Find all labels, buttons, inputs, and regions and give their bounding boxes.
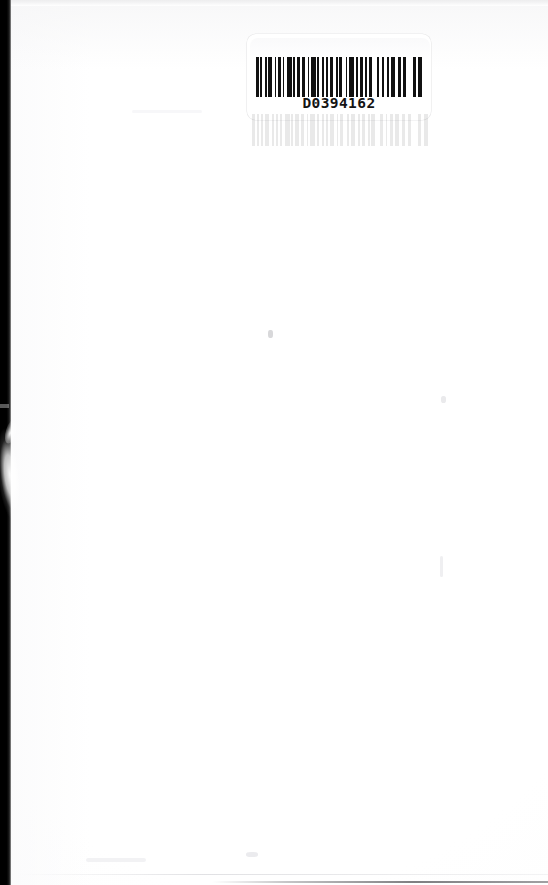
barcode-bar xyxy=(424,114,428,146)
barcode-number-text: D0394162 xyxy=(247,96,431,111)
barcode-showthrough xyxy=(252,114,428,146)
page-speck xyxy=(268,330,273,338)
scanned-page: D0394162 xyxy=(0,0,548,885)
barcode-space xyxy=(411,114,419,146)
barcode-bars xyxy=(256,57,422,97)
scanner-bottom-faint-line xyxy=(20,874,548,875)
page-speck xyxy=(86,858,146,862)
barcode-bar xyxy=(418,57,422,97)
page-speck xyxy=(132,110,202,113)
scanner-bottom-line xyxy=(212,881,548,883)
page-speck xyxy=(246,852,258,857)
page-speck xyxy=(441,396,446,403)
barcode-space xyxy=(406,57,413,97)
scanner-edge-nick xyxy=(0,404,9,408)
page-speck xyxy=(440,556,443,577)
scanner-top-shadow xyxy=(10,0,548,6)
